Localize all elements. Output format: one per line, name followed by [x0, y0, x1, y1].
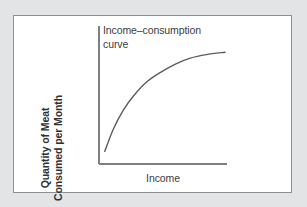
- plot-area: Income–consumption curve Quantity of Mea…: [14, 16, 293, 194]
- y-axis-label-line-2: Consumed per Month: [52, 95, 65, 201]
- chart-title-annotation: Income–consumption curve: [103, 24, 233, 51]
- income-consumption-curve: [105, 52, 225, 151]
- y-axis-label: Quantity of Meat Consumed per Month: [38, 73, 66, 207]
- figure-panel: Income–consumption curve Quantity of Mea…: [13, 15, 292, 193]
- x-axis-label: Income: [99, 172, 227, 184]
- y-axis-label-line-1: Quantity of Meat: [39, 108, 52, 189]
- series-group: [105, 52, 225, 151]
